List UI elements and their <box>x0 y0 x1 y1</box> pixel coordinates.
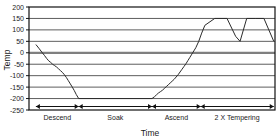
y-tick-label: -150 <box>10 84 24 91</box>
x-axis-title: Time <box>141 128 160 138</box>
phase-label: Soak <box>107 114 123 121</box>
y-tick-label: 150 <box>12 15 24 22</box>
y-tick-label: 50 <box>16 38 24 45</box>
y-tick-label: -50 <box>14 61 24 68</box>
y-tick-label: 100 <box>12 26 24 33</box>
chart-container: 200150100500-50-100-150-200-250 DescendS… <box>0 0 277 139</box>
y-tick-label: 200 <box>12 4 24 11</box>
temperature-profile-chart: 200150100500-50-100-150-200-250 DescendS… <box>0 0 277 139</box>
y-tick-label: 0 <box>20 49 24 56</box>
y-tick-label: -100 <box>10 72 24 79</box>
phase-label: Descend <box>43 114 71 121</box>
phase-label: Ascend <box>165 114 188 121</box>
y-tick-label: -250 <box>10 107 24 114</box>
y-tick-label: -200 <box>10 95 24 102</box>
y-axis-title: Temp <box>2 49 12 70</box>
phase-label: 2 X Tempering <box>215 114 260 122</box>
